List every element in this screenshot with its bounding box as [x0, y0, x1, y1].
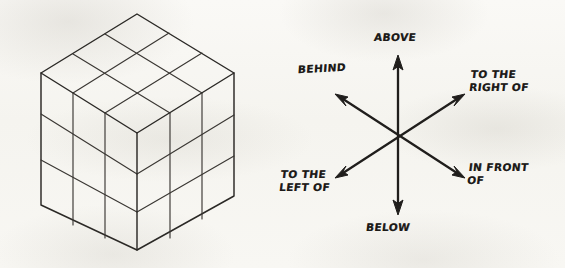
axis-label-below-text: BELOW: [365, 221, 410, 233]
axis-label-left-of: TO THELEFT OF: [278, 168, 332, 193]
axis-label-right-of-line1: TO THE: [470, 68, 517, 80]
axis-label-above: ABOVE: [373, 31, 417, 44]
axis-label-in-front-of: IN FRONTOF: [466, 161, 529, 186]
direction-axes-figure: [0, 0, 565, 268]
axis-label-left-of-line2: LEFT OF: [279, 181, 331, 193]
axis-label-right-of: TO THERIGHT OF: [468, 68, 531, 93]
axis-label-in-front-line1: IN FRONT: [468, 161, 529, 173]
axis-label-left-of-line1: TO THE: [280, 168, 327, 180]
axis-label-behind-text: BEHIND: [297, 61, 346, 75]
figure-canvas: ABOVE BEHIND TO THERIGHT OF IN FRONTOF T…: [0, 0, 565, 268]
axis-label-in-front-line2: OF: [467, 174, 485, 186]
axis-label-below: BELOW: [365, 221, 411, 234]
axis-label-above-text: ABOVE: [373, 31, 417, 43]
axis-label-right-of-line2: RIGHT OF: [469, 81, 530, 93]
axis-label-behind: BEHIND: [297, 61, 346, 76]
